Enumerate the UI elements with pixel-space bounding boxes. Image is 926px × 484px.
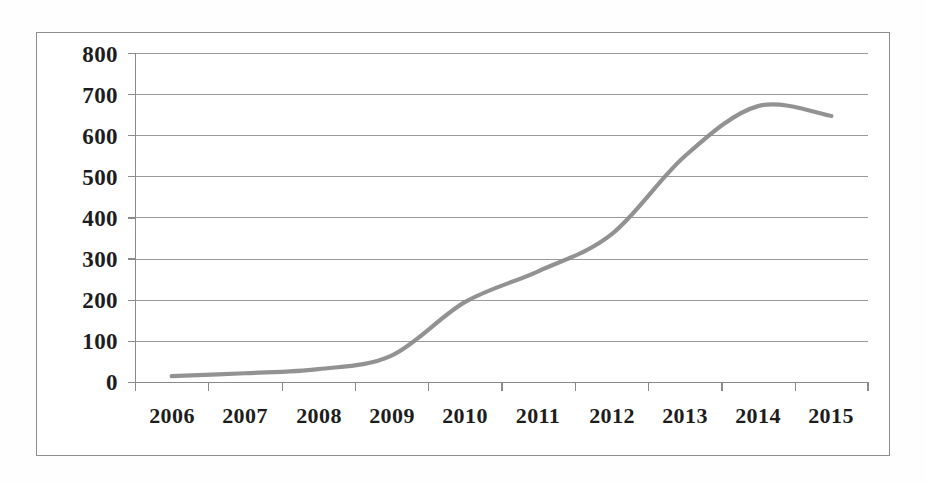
x-tick-label: 2014 — [735, 403, 781, 428]
data-series-line — [172, 104, 832, 376]
x-tick-label: 2009 — [369, 403, 415, 428]
x-tick-label: 2008 — [296, 403, 342, 428]
y-tick-label: 800 — [82, 42, 118, 67]
y-tick-label: 200 — [82, 288, 118, 313]
x-tick-label: 2015 — [808, 403, 854, 428]
x-axis-tick-labels: 2006 2007 2008 2009 2010 2011 2012 2013 … — [149, 403, 854, 428]
line-chart: 800 700 600 500 400 300 200 100 0 2006 2… — [0, 0, 926, 484]
y-axis-tick-labels: 800 700 600 500 400 300 200 100 0 — [82, 42, 118, 395]
x-tick-label: 2007 — [222, 403, 268, 428]
y-tick-label: 500 — [82, 165, 118, 190]
x-tick-label: 2013 — [662, 403, 708, 428]
x-tick-label: 2006 — [149, 403, 195, 428]
x-tick-label: 2010 — [442, 403, 488, 428]
gridlines — [135, 54, 868, 342]
y-tick-label: 100 — [82, 329, 118, 354]
x-tick-label: 2012 — [589, 403, 635, 428]
x-tick-label: 2011 — [516, 403, 560, 428]
y-tick-label: 700 — [82, 83, 118, 108]
y-tick-label: 400 — [82, 206, 118, 231]
y-tick-label: 0 — [106, 370, 118, 395]
y-tick-label: 300 — [82, 247, 118, 272]
y-tick-label: 600 — [82, 124, 118, 149]
y-axis-ticks — [128, 54, 135, 383]
x-axis-ticks — [136, 382, 869, 391]
